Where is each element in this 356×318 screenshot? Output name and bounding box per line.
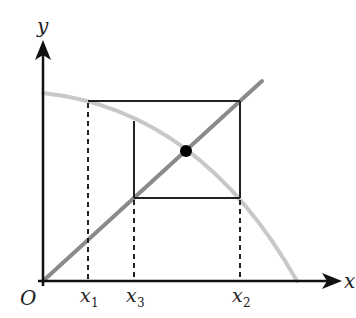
line-y-equals-x [43, 81, 262, 281]
svg-text:1: 1 [91, 296, 99, 310]
cobweb-diagram: y x O x 1 x 3 x 2 [0, 0, 356, 318]
tick-label-x3: x 3 [126, 284, 145, 310]
svg-text:3: 3 [137, 296, 145, 310]
dashed-guides [88, 103, 240, 281]
svg-text:2: 2 [243, 296, 251, 310]
fixed-point [180, 145, 192, 157]
tick-label-x2: x 2 [232, 284, 251, 310]
axes [35, 40, 342, 289]
x-axis-label: x [344, 269, 355, 293]
origin-label: O [20, 286, 36, 310]
curve-f [43, 93, 297, 281]
svg-text:x: x [126, 284, 137, 306]
cobweb-path [88, 101, 240, 198]
tick-label-x1: x 1 [80, 284, 99, 310]
y-axis-label: y [36, 14, 49, 38]
svg-text:x: x [232, 284, 243, 306]
svg-text:x: x [80, 284, 91, 306]
